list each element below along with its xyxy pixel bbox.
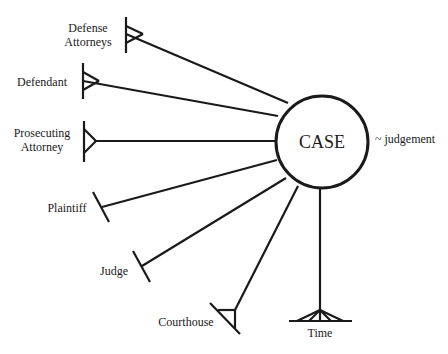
relationship-time (289, 189, 352, 321)
judgement-annotation: ~ judgement (375, 132, 436, 146)
relationship-defense-attorneys (126, 17, 288, 103)
label-defense-attorneys-line2: Attorneys (64, 35, 112, 49)
label-prosecuting-attorney-line1: Prosecuting (14, 126, 71, 140)
relationship-defendant (83, 63, 278, 116)
case-label: CASE (299, 132, 345, 152)
label-time: Time (308, 326, 333, 340)
label-courthouse: Courthouse (158, 315, 213, 329)
label-defendant: Defendant (17, 75, 68, 89)
relationship-prosecuting-attorney (84, 121, 276, 162)
relationship-plaintiff (93, 160, 277, 222)
label-plaintiff: Plaintiff (47, 201, 86, 215)
er-diagram: CASE ~ judgement Defense Attorneys Defen… (0, 0, 448, 354)
relationship-courthouse (210, 186, 298, 334)
label-defense-attorneys-line1: Defense (68, 21, 107, 35)
label-judge: Judge (100, 264, 128, 278)
label-prosecuting-attorney-line2: Attorney (21, 140, 64, 154)
